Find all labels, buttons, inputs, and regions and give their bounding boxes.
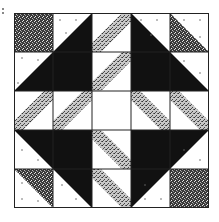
edge-mark	[2, 8, 4, 22]
quilt-block	[14, 13, 209, 208]
corner-square-bottom-right	[170, 169, 209, 208]
corner-square-top-left	[14, 13, 53, 52]
